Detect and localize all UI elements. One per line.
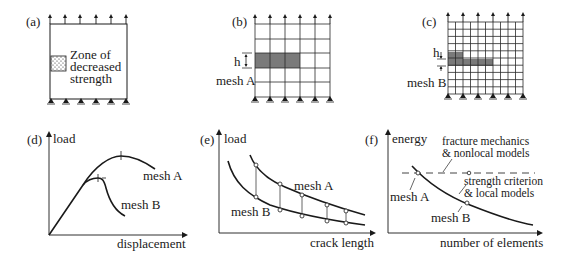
point-mesh-b <box>465 201 469 205</box>
panel-e: (e) load crack length mesh A mesh B <box>200 131 374 250</box>
fracture-text-2: & nonlocal models <box>442 147 530 159</box>
h-label: h <box>433 45 440 60</box>
figure: (a) Zone of decreased strength (b) <box>0 0 563 258</box>
fracture-text-1: fracture mechanics <box>442 135 530 147</box>
mesh-b-label: mesh B <box>407 75 447 90</box>
y-axis-label: load <box>53 131 76 146</box>
panel-a: (a) Zone of decreased strength <box>26 14 130 104</box>
panel-c: (c) <box>407 12 527 99</box>
mesh-a-label: mesh A <box>143 168 183 183</box>
zone-text-3: strength <box>70 71 112 86</box>
mesh-b-label: mesh B <box>121 197 161 212</box>
weak-zone <box>51 56 66 71</box>
load-arrows <box>446 12 525 22</box>
h-label: h <box>234 54 241 69</box>
mesh-b-grid <box>448 22 523 94</box>
x-axis-label: displacement <box>117 236 186 251</box>
panel-d: (d) load displacement mesh A mesh B <box>27 131 186 251</box>
mesh-b-label: mesh B <box>431 210 471 225</box>
panel-e-label: (e) <box>200 132 214 147</box>
panel-d-label: (d) <box>27 132 42 147</box>
panel-c-label: (c) <box>422 14 436 29</box>
mesh-b-label: mesh B <box>231 204 271 219</box>
curve-mesh-b <box>83 178 125 216</box>
mesh-a-label: mesh A <box>216 73 256 88</box>
strength-text-2: & local models <box>464 187 535 199</box>
panel-f: (f) energy number of elements fracture m… <box>365 131 543 250</box>
panel-a-label: (a) <box>26 14 40 29</box>
y-axis-label: load <box>224 131 247 146</box>
x-axis-label: number of elements <box>440 235 543 250</box>
panel-b-label: (b) <box>232 14 247 29</box>
load-arrows <box>48 14 128 24</box>
curve-mesh-a <box>49 156 155 235</box>
mesh-a-label: mesh A <box>294 178 334 193</box>
mesh-a-label: mesh A <box>390 189 430 204</box>
load-arrows <box>253 14 332 24</box>
point-mesh-a <box>416 171 420 175</box>
panel-f-label: (f) <box>365 132 378 147</box>
damaged-band <box>255 53 300 68</box>
x-axis-label: crack length <box>310 235 374 250</box>
y-axis-label: energy <box>392 131 428 146</box>
panel-b: (b) h mesh A <box>216 14 334 102</box>
h-dimension <box>242 53 252 68</box>
